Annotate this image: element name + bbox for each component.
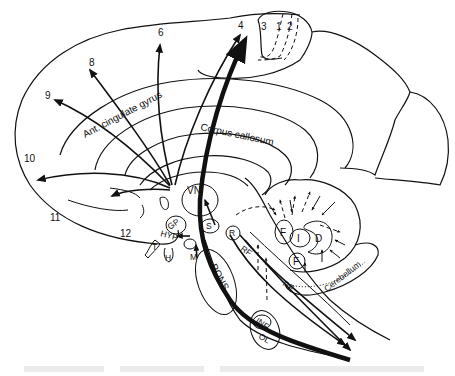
i-nucleus bbox=[290, 229, 310, 247]
label-m: M bbox=[190, 252, 197, 262]
label-rf-upper: RF bbox=[239, 243, 254, 258]
label-area-9: 9 bbox=[45, 90, 51, 101]
label-area-1: 1 bbox=[276, 21, 282, 32]
brain-diagram: 4 3 1 2 6 8 9 10 11 12 Ant. cingulate gy… bbox=[0, 0, 455, 376]
brainstem-outline-ventral bbox=[205, 240, 345, 358]
gyrus-rectus-curve bbox=[140, 205, 144, 218]
label-t: T bbox=[152, 242, 157, 252]
hemisphere-outline bbox=[15, 14, 300, 245]
label-vn: VN bbox=[187, 185, 201, 196]
cerebellum-outline bbox=[265, 180, 360, 272]
label-area-6: 6 bbox=[158, 27, 164, 38]
label-s: S bbox=[206, 221, 212, 231]
olfactory-d bbox=[160, 197, 168, 209]
label-cerebellum: Cerebellum bbox=[322, 259, 362, 294]
label-rf-lower: RF bbox=[281, 278, 296, 293]
fiber-area-4-heavy bbox=[200, 40, 350, 360]
label-area-10: 10 bbox=[24, 153, 36, 164]
label-area-3: 3 bbox=[261, 21, 267, 32]
label-area-11: 11 bbox=[50, 212, 61, 223]
label-d: D bbox=[315, 233, 322, 244]
label-hyp: HYP bbox=[159, 228, 179, 242]
parietal-lobe bbox=[198, 11, 312, 78]
orbital-curve bbox=[68, 200, 128, 211]
fiber-orbital bbox=[112, 189, 170, 196]
cropped-caption bbox=[24, 366, 424, 372]
occipital-lobe bbox=[375, 92, 448, 185]
fiber-area-4-up bbox=[175, 35, 240, 185]
label-area-4: 4 bbox=[238, 20, 244, 31]
label-f-upper: F bbox=[280, 227, 286, 238]
label-area-12: 12 bbox=[120, 228, 132, 239]
fiber-area-10 bbox=[38, 173, 170, 188]
label-i: I bbox=[297, 233, 300, 244]
label-area-2: 2 bbox=[287, 21, 293, 32]
label-h: H bbox=[165, 253, 171, 263]
label-f-lower: F bbox=[293, 256, 299, 267]
m-body bbox=[184, 239, 196, 249]
label-pons: PONS bbox=[208, 262, 231, 292]
label-r: R bbox=[229, 228, 235, 238]
label-area-8: 8 bbox=[89, 57, 95, 68]
